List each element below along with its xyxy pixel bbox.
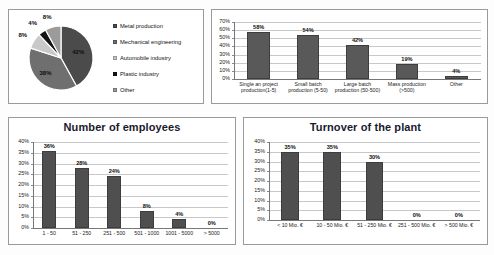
bar	[297, 35, 320, 79]
legend-label: Automobile industry	[120, 55, 171, 61]
bar	[42, 151, 56, 228]
legend-swatch-icon	[113, 88, 117, 92]
pie-label-automobile-industry: 8%	[18, 32, 27, 38]
chart-panel-turnover: Turnover of the plant 0%5%10%15%20%25%30…	[243, 117, 488, 245]
bar	[445, 76, 468, 79]
chart-panel-employees: Number of employees 0%5%10%15%20%25%30%3…	[8, 117, 236, 245]
bar-value-label: 36%	[36, 143, 62, 149]
legend-item: Automobile industry	[113, 50, 203, 66]
bar	[366, 162, 384, 221]
x-axis-category-label: Large batch production (50-500)	[333, 82, 382, 94]
y-axis-line	[269, 142, 270, 220]
y-axis-label: 10%	[11, 204, 29, 209]
bar-value-label: 58%	[241, 24, 276, 30]
x-axis-category-label: Small batch production (5-50)	[283, 82, 332, 94]
x-axis-category-label: < 10 Mio. €	[269, 223, 311, 229]
y-axis-label: 5%	[11, 214, 29, 219]
x-axis-line	[234, 79, 481, 80]
y-axis-label: 60%	[214, 27, 230, 32]
gridline	[33, 185, 228, 186]
pie-label-mechanical-engineering: 38%	[40, 70, 52, 76]
x-axis-category-label: 10 - 50 Mio. €	[311, 223, 353, 229]
y-axis-line	[33, 142, 34, 228]
y-axis-label: 50%	[214, 35, 230, 40]
bar-value-label: 0%	[199, 220, 225, 226]
y-axis-label: 20%	[214, 60, 230, 65]
x-axis-line	[33, 228, 228, 229]
bar-value-label: 8%	[134, 203, 160, 209]
legend-item: Plastic industry	[113, 66, 203, 82]
gridline	[33, 207, 228, 208]
y-axis-label: 40%	[11, 139, 29, 144]
y-axis-label: 10%	[246, 198, 265, 203]
y-axis-label: 35%	[246, 149, 265, 154]
x-axis-category-label: 1001 - 5000	[163, 231, 196, 237]
pie-label-other: 8%	[43, 14, 52, 20]
x-axis-category-label: Mass production (>500)	[382, 82, 431, 94]
gridline	[33, 196, 228, 197]
bar	[172, 219, 186, 228]
y-axis-line	[234, 22, 235, 79]
x-axis-category-label: 501 - 1000	[131, 231, 164, 237]
legend-item: Other	[113, 82, 203, 98]
bar-value-label: 35%	[275, 144, 305, 150]
y-axis-label: 70%	[214, 19, 230, 24]
y-axis-label: 35%	[11, 150, 29, 155]
bar-value-label: 4%	[439, 68, 474, 74]
legend-label: Plastic industry	[120, 71, 159, 77]
gridline	[33, 217, 228, 218]
y-axis-label: 30%	[214, 52, 230, 57]
legend-label: Mechanical engineering	[120, 39, 181, 45]
production-plot-area: 0%10%20%30%40%50%60%70%58%Single an proj…	[214, 14, 487, 103]
legend-swatch-icon	[113, 24, 117, 28]
y-axis-label: 25%	[246, 168, 265, 173]
bar-value-label: 35%	[317, 144, 347, 150]
y-axis-label: 20%	[246, 178, 265, 183]
y-axis-label: 30%	[246, 159, 265, 164]
gridline	[33, 142, 228, 143]
x-axis-category-label: > 500 Mio. €	[438, 223, 480, 229]
y-axis-label: 10%	[214, 68, 230, 73]
x-axis-category-label: 51 - 250 Mio. €	[353, 223, 395, 229]
legend-label: Metal production	[120, 23, 163, 29]
y-axis-label: 0%	[246, 217, 265, 222]
figure-sheet: 42% 38% 8% 4% 8% Metal productionMechani…	[0, 0, 494, 255]
gridline	[33, 164, 228, 165]
turnover-plot-area: 0%5%10%15%20%25%30%35%40%35%< 10 Mio. €3…	[246, 134, 487, 244]
legend-label: Other	[120, 87, 135, 93]
y-axis-label: 25%	[11, 171, 29, 176]
employees-chart-title: Number of employees	[9, 121, 235, 133]
bar-value-label: 19%	[390, 56, 425, 62]
bar-value-label: 30%	[360, 154, 390, 160]
chart-panel-industry: 42% 38% 8% 4% 8% Metal productionMechani…	[8, 9, 204, 104]
legend-item: Mechanical engineering	[113, 34, 203, 50]
legend-swatch-icon	[113, 56, 117, 60]
x-axis-category-label: Single an project production(1-5)	[234, 82, 283, 94]
y-axis-label: 40%	[246, 139, 265, 144]
employees-plot-area: 0%5%10%15%20%25%30%35%40%36%1 - 5028%51 …	[11, 134, 235, 244]
gridline	[234, 30, 481, 31]
x-axis-line	[269, 220, 480, 221]
bar-value-label: 4%	[166, 211, 192, 217]
bar	[75, 168, 89, 228]
pie-legend: Metal productionMechanical engineeringAu…	[113, 18, 203, 98]
legend-swatch-icon	[113, 40, 117, 44]
legend-swatch-icon	[113, 72, 117, 76]
bar-value-label: 42%	[340, 37, 375, 43]
bar	[323, 152, 341, 220]
pie-svg	[15, 16, 111, 98]
y-axis-label: 0%	[11, 225, 29, 230]
y-axis-label: 0%	[214, 76, 230, 81]
x-axis-category-label: 1 - 50	[33, 231, 66, 237]
bar-value-label: 28%	[69, 160, 95, 166]
y-axis-label: 15%	[246, 188, 265, 193]
y-axis-label: 30%	[11, 161, 29, 166]
x-axis-category-label: Other	[432, 82, 481, 88]
bar	[281, 152, 299, 220]
chart-panel-production-type: 0%10%20%30%40%50%60%70%58%Single an proj…	[211, 9, 488, 104]
bar	[346, 45, 369, 79]
turnover-chart-title: Turnover of the plant	[244, 121, 487, 133]
bar	[247, 32, 270, 79]
y-axis-label: 15%	[11, 193, 29, 198]
y-axis-label: 20%	[11, 182, 29, 187]
